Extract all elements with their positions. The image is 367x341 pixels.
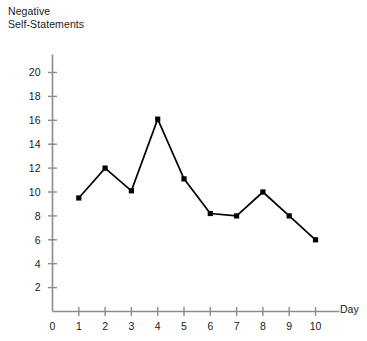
y-axis-tick-label: 16 xyxy=(29,114,41,126)
chart-page: Negative Self-Statements Day 24681012141… xyxy=(0,0,367,341)
data-point-marker xyxy=(313,237,318,242)
data-point-marker xyxy=(103,166,108,171)
x-axis-tick-label: 6 xyxy=(207,320,213,332)
x-axis-tick-label: 10 xyxy=(310,320,322,332)
y-axis-tick-label: 10 xyxy=(29,186,41,198)
y-axis-tick-label: 2 xyxy=(35,281,41,293)
x-axis-tick-label: 5 xyxy=(181,320,187,332)
data-point-marker xyxy=(155,117,160,122)
data-series-group xyxy=(76,117,318,243)
data-point-marker xyxy=(76,195,81,200)
x-axis-tick-label: 3 xyxy=(128,320,134,332)
y-axis-tick-label: 4 xyxy=(35,258,41,270)
data-point-marker xyxy=(129,188,134,193)
x-axis-ticks: 012345678910 xyxy=(50,307,322,332)
x-axis-tick-label: 9 xyxy=(286,320,292,332)
data-point-markers xyxy=(76,117,318,243)
y-axis-group: 2468101214161820 xyxy=(29,55,57,312)
x-axis-tick-label: 8 xyxy=(260,320,266,332)
y-axis-tick-label: 12 xyxy=(29,162,41,174)
x-axis-tick-label: 2 xyxy=(102,320,108,332)
y-axis-tick-label: 6 xyxy=(35,234,41,246)
data-line xyxy=(79,119,316,240)
y-axis-tick-label: 14 xyxy=(29,138,41,150)
data-point-marker xyxy=(181,176,186,181)
x-axis-tick-label: 7 xyxy=(234,320,240,332)
data-point-marker xyxy=(287,213,292,218)
x-axis-group: 012345678910 xyxy=(50,307,340,332)
x-axis-tick-label: 4 xyxy=(155,320,161,332)
data-point-marker xyxy=(260,189,265,194)
line-chart-plot: 2468101214161820 012345678910 xyxy=(0,0,367,341)
x-axis-tick-label: 1 xyxy=(76,320,82,332)
data-point-marker xyxy=(234,213,239,218)
y-axis-tick-label: 20 xyxy=(29,66,41,78)
x-axis-tick-label: 0 xyxy=(50,320,56,332)
data-point-marker xyxy=(208,211,213,216)
y-axis-tick-label: 18 xyxy=(29,90,41,102)
y-axis-tick-label: 8 xyxy=(35,210,41,222)
